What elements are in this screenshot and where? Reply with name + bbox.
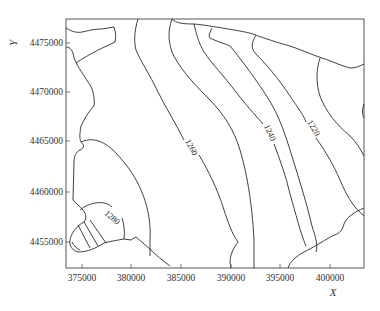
x-tick-label: 385000 [167, 273, 196, 283]
y-tick-label: 4465000 [30, 136, 64, 146]
x-tick-label: 390000 [217, 273, 246, 283]
x-tick-label: 380000 [117, 273, 146, 283]
x-tick-labels: 375000 380000 385000 390000 395000 40000… [68, 273, 345, 283]
x-tick-label: 375000 [68, 273, 97, 283]
y-tick-label: 4470000 [30, 87, 64, 97]
x-axis-title: X [329, 286, 338, 298]
y-tick-label: 4455000 [30, 237, 64, 247]
contour-chart: 1280 1260 1240 1220 [0, 0, 380, 311]
y-tick-label: 4475000 [30, 38, 64, 48]
x-tick-label: 400000 [316, 273, 345, 283]
y-tick-label: 4460000 [30, 187, 64, 197]
y-tick-labels: 4475000 4470000 4465000 4460000 4455000 [30, 38, 64, 247]
y-axis-title: Y [7, 38, 19, 46]
x-tick-label: 395000 [266, 273, 295, 283]
